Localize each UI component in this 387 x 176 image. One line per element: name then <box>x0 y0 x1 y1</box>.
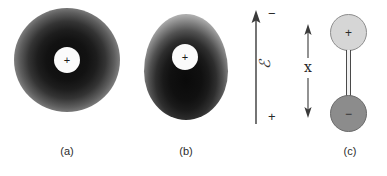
caption-b: (b) <box>156 145 216 157</box>
separation-distance-label: x <box>304 60 312 74</box>
nucleus-b: + <box>172 44 198 70</box>
nucleus-a: + <box>54 47 80 73</box>
field-arrow-icon <box>240 0 292 176</box>
field-symbol-label: ℰ <box>258 60 273 69</box>
nucleus-charge-b-label: + <box>182 52 188 63</box>
dipole-rod <box>346 50 351 96</box>
dipole-negative-charge: − <box>330 95 367 132</box>
nucleus-charge-a-label: + <box>64 55 70 66</box>
panel-c: + − x (c) <box>292 0 387 176</box>
field-positive-sign: + <box>268 110 276 123</box>
physics-figure: + (a) + (b) − ℰ + + − <box>0 0 387 176</box>
dipole-positive-label: + <box>345 27 352 39</box>
dipole-negative-label: − <box>345 108 352 120</box>
caption-a: (a) <box>37 145 97 157</box>
dipole-positive-charge: + <box>330 14 367 51</box>
electric-field-indicator: − ℰ + <box>240 0 292 176</box>
caption-c: (c) <box>320 145 380 157</box>
